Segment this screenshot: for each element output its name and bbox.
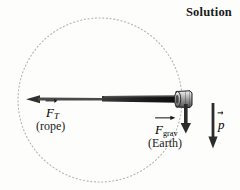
tension-symbol-letter: F (46, 105, 54, 120)
ball-object-icon (175, 91, 193, 108)
momentum-vector-icon (208, 103, 217, 149)
tension-vector-icon (26, 95, 178, 103)
momentum-vector-label: p (218, 115, 225, 133)
tension-source-label: (rope) (36, 119, 65, 134)
gravity-source-label: (Earth) (148, 136, 182, 151)
page-title: Solution (186, 6, 232, 19)
gravity-symbol-letter: F (155, 122, 163, 137)
diagram-canvas (0, 0, 240, 190)
gravity-vector-icon (181, 104, 191, 134)
physics-diagram-figure: Solution FT (rope) Fgrav (Earth) (0, 0, 240, 190)
momentum-symbol-letter: p (218, 117, 225, 132)
momentum-symbol: p (218, 117, 225, 133)
